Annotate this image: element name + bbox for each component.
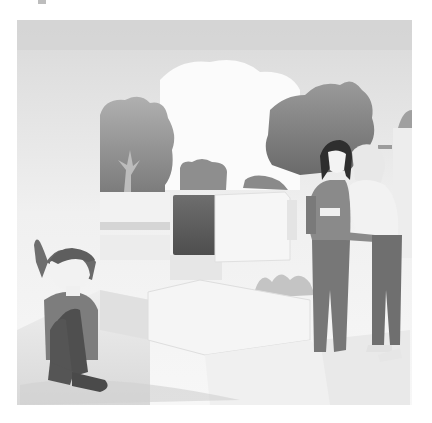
- light-tomb: [215, 192, 297, 262]
- scene-svg: [0, 0, 432, 423]
- walls: [100, 192, 170, 260]
- left-tree: [100, 97, 174, 192]
- dark-tombstone: [170, 195, 222, 280]
- shoe-left: [366, 345, 392, 352]
- illustration: [0, 0, 432, 423]
- cut-off-text: [38, 0, 46, 4]
- face: [328, 150, 346, 173]
